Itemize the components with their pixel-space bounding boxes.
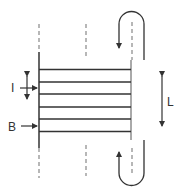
length-label: L [167,95,174,109]
conductor-strips [39,70,131,132]
current-label: I [11,81,14,95]
strip-conductor-diagram: L I B [0,0,182,194]
dashed-guides [39,22,132,178]
field-label: B [8,120,16,134]
